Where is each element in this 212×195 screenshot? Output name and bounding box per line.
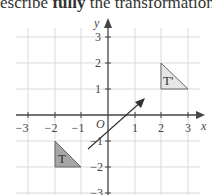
x-tick-label: −2	[45, 121, 58, 135]
y-tick-label: −2	[90, 160, 103, 174]
axes	[16, 24, 200, 195]
x-tick-label: −3	[16, 121, 29, 135]
triangle-T-label: T	[58, 151, 66, 166]
y-tick-label: 3	[95, 30, 101, 44]
x-tick-label: 2	[158, 121, 164, 135]
origin-label: O	[96, 117, 105, 131]
triangle-T-prime-label: T'	[163, 73, 173, 88]
x-tick-label: 3	[185, 121, 191, 135]
y-axis-label: y	[93, 16, 100, 30]
y-tick-label: 1	[95, 82, 101, 96]
x-axis-label: x	[200, 119, 207, 133]
y-tick-label: 2	[95, 56, 101, 70]
y-axis-arrow-icon	[104, 18, 112, 28]
coordinate-graph: T T' −3 −2 −1 1 2 3 3 2 1 −1 −2 −3 x y O	[0, 0, 212, 195]
y-tick-label: −3	[90, 186, 103, 195]
x-tick-label: −1	[72, 121, 85, 135]
x-tick-label: 1	[132, 121, 138, 135]
x-axis-arrow-icon	[196, 111, 205, 119]
